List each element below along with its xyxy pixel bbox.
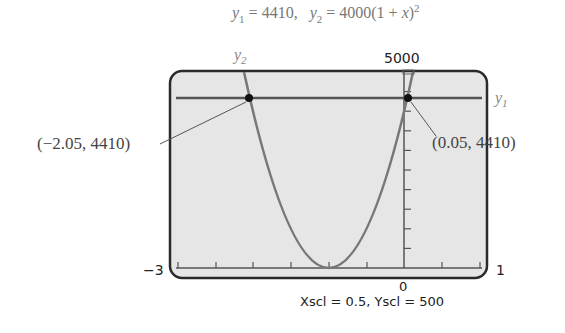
line-label-y1-sub: 1 <box>502 97 508 109</box>
line-label-y1: y1 <box>495 89 508 109</box>
annotation-right: (0.05, 4410) <box>432 133 516 153</box>
annotation-left: (−2.05, 4410) <box>37 134 130 154</box>
curve-label-y2-sub: 2 <box>241 54 247 66</box>
ymax-label: 5000 <box>384 50 420 66</box>
curve-label-y2: y2 <box>234 46 247 66</box>
xmin-label: −3 <box>143 262 164 278</box>
scale-label: Xscl = 0.5, Yscl = 500 <box>300 294 444 309</box>
x-zero-label: 0 <box>399 279 407 294</box>
intersection-right-point <box>404 94 412 102</box>
graph-canvas <box>0 0 565 333</box>
intersection-left-point <box>245 94 253 102</box>
calculator-screen <box>170 71 487 278</box>
xmax-label: 1 <box>496 262 505 278</box>
